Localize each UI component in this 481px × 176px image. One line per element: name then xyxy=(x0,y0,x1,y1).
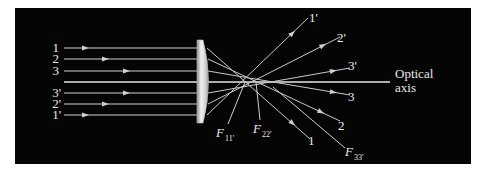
focal-f22-sub: 22' xyxy=(262,130,272,139)
label-out-3: 3 xyxy=(348,89,355,104)
focal-f33-sub: 33' xyxy=(354,153,364,162)
spherical-aberration-diagram: 1 2 3 3' 2' 1' 1' 2' 3' 3 2 1 Optical ax… xyxy=(0,0,481,176)
label-out-2-prime: 2' xyxy=(337,30,346,45)
optical-axis-label-line2: axis xyxy=(395,80,416,95)
focal-f33-main: F xyxy=(344,144,354,159)
optical-axis-label-line1: Optical xyxy=(395,66,434,81)
label-out-1: 1 xyxy=(308,133,315,148)
label-ray-1-prime: 1' xyxy=(52,107,61,122)
label-out-3-prime: 3' xyxy=(348,58,357,73)
label-out-2: 2 xyxy=(338,118,345,133)
focal-f22-main: F xyxy=(252,121,262,136)
label-ray-3: 3 xyxy=(53,63,60,78)
focal-f11-sub: 11' xyxy=(225,134,235,143)
label-out-1-prime: 1' xyxy=(309,10,318,25)
focal-f11-main: F xyxy=(215,125,225,140)
